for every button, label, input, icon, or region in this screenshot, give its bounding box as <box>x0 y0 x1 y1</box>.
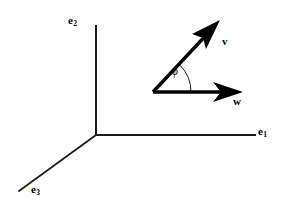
vector-diagram: e2 e1 e3 v w ϕ <box>0 0 284 208</box>
axis-label-e3: e3 <box>31 184 40 195</box>
angle-arc <box>180 65 191 92</box>
vector-label-w: w <box>233 96 241 107</box>
axes-group <box>19 26 255 191</box>
angle-label-phi: ϕ <box>172 66 178 78</box>
vector-v-shaft <box>153 31 210 92</box>
vector-label-v: v <box>222 36 228 47</box>
vector-w-group <box>153 82 243 102</box>
vector-v-group <box>153 20 220 92</box>
diagram-canvas <box>0 0 284 208</box>
axis-label-e1: e1 <box>258 126 267 137</box>
axis-label-e2: e2 <box>68 15 77 26</box>
